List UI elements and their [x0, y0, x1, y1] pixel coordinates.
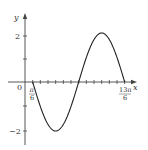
y-axis-label: y	[13, 13, 19, 22]
x-tick-label-pi6-numerator: π	[29, 86, 35, 94]
y-tick-label-2: 2	[15, 32, 20, 41]
x-tick-label-pi6-denominator: 6	[30, 94, 34, 102]
y-axis-arrow-icon	[23, 13, 27, 19]
x-tick-label-13pi6-denominator: 6	[123, 94, 127, 102]
origin-label: 0	[17, 83, 22, 92]
y-tick-label-neg2: −2	[9, 127, 21, 136]
sine-chart: y x 0 2 −2 π 6 13π 6	[0, 0, 148, 150]
x-axis-label: x	[133, 83, 138, 92]
x-tick-label-13pi6-numerator: 13π	[119, 86, 132, 94]
